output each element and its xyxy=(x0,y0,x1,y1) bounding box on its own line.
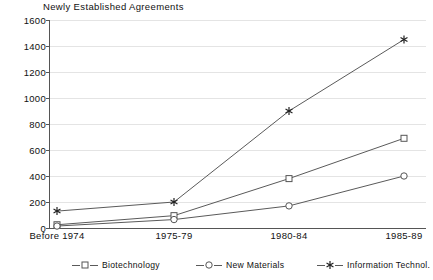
legend-label: New Materials xyxy=(226,260,284,270)
series-line xyxy=(57,138,404,224)
series-biotechnology xyxy=(54,135,407,227)
legend-entry[interactable]: Biotechnology xyxy=(72,258,160,272)
chart-legend: BiotechnologyNew MaterialsInformation Te… xyxy=(0,258,433,274)
data-point-marker-circle xyxy=(206,262,212,268)
data-point-marker-circle xyxy=(286,203,292,209)
legend-marker-square-icon xyxy=(72,259,98,271)
legend-label: Biotechnology xyxy=(102,260,160,270)
data-point-marker-circle xyxy=(401,173,407,179)
data-point-marker-square xyxy=(286,176,292,182)
data-point-marker-asterisk xyxy=(286,107,293,115)
chart-figure: Newly Established Agreements 02004006008… xyxy=(0,0,433,280)
legend-entry[interactable]: Information Technol. xyxy=(317,258,430,272)
series-line xyxy=(57,176,404,226)
legend-marker-circle-icon xyxy=(196,259,222,271)
x-axis-tick-label: 1975-79 xyxy=(156,230,193,241)
data-point-marker-asterisk xyxy=(401,36,408,44)
legend-marker-asterisk-icon xyxy=(317,259,343,271)
data-point-marker-square xyxy=(82,262,88,268)
series-information-technol xyxy=(54,36,408,216)
legend-label: Information Technol. xyxy=(347,260,430,270)
x-axis-tick-label: 1980-84 xyxy=(271,230,308,241)
x-axis-tick-label: 1985-89 xyxy=(386,230,423,241)
data-point-marker-square xyxy=(401,135,407,141)
legend-entry[interactable]: New Materials xyxy=(196,258,284,272)
x-axis-tick-label: Before 1974 xyxy=(29,230,84,241)
series-line xyxy=(57,40,404,212)
data-point-marker-circle xyxy=(171,216,177,222)
data-point-marker-asterisk xyxy=(327,261,334,269)
data-point-marker-circle xyxy=(54,223,60,229)
